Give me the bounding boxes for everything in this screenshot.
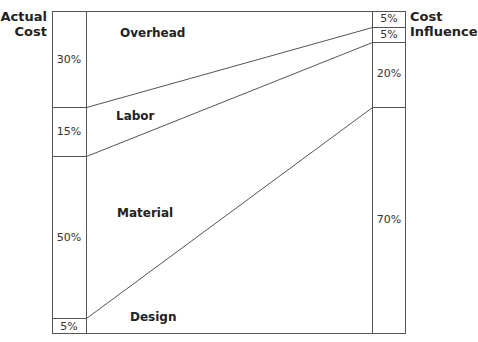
right-overhead-pct: 5% <box>372 12 406 25</box>
right-axis-title-line1: Cost <box>410 9 478 24</box>
category-design: Design <box>130 310 177 324</box>
left-labor-pct: 15% <box>52 125 86 138</box>
left-design-pct: 5% <box>52 320 86 333</box>
right-labor-pct: 5% <box>372 28 406 41</box>
category-overhead: Overhead <box>120 26 185 40</box>
left-axis-title-line2: Cost <box>1 24 47 39</box>
outer-frame <box>53 12 406 334</box>
left-axis-title-line1: Actual <box>1 9 47 24</box>
right-design-pct: 70% <box>372 213 406 226</box>
category-material: Material <box>117 206 173 220</box>
right-axis-title-line2: Influence <box>410 24 478 39</box>
left-material-pct: 50% <box>52 231 86 244</box>
right-axis-title: Cost Influence <box>410 9 478 39</box>
category-labor: Labor <box>116 109 155 123</box>
right-material-pct: 20% <box>372 67 406 80</box>
left-overhead-pct: 30% <box>52 53 86 66</box>
left-axis-title: Actual Cost <box>1 9 47 39</box>
